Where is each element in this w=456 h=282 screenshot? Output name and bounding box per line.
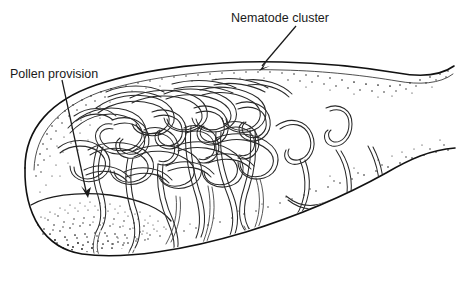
pollen-provision-mass [31, 194, 171, 254]
pollen-provision-label: Pollen provision [10, 67, 98, 81]
nematode-cluster-label: Nematode cluster [231, 11, 329, 25]
nematode-cluster-leader-line [262, 26, 296, 66]
nematode-cluster-annotation [259, 26, 296, 71]
pollen-provision-arrowhead [81, 186, 91, 198]
pollen-provision-leader-line [62, 80, 86, 191]
nematode-cluster-figure: Nematode cluster Pollen provision [0, 0, 456, 282]
nematode-cluster [58, 78, 407, 272]
